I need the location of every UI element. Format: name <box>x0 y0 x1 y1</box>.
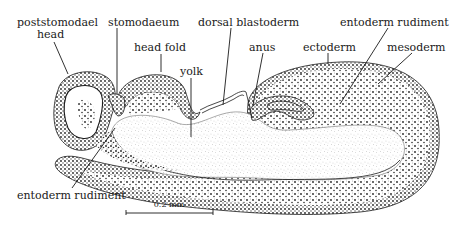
label-dorsal-blastoderm: dorsal blastoderm <box>198 16 300 29</box>
label-anus: anus <box>249 41 276 54</box>
embryo-diagram: poststomodael head stomodaeum dorsal bla… <box>0 0 458 228</box>
label-yolk: yolk <box>179 65 203 78</box>
label-entoderm-rudiment-top: entoderm rudiment <box>340 16 449 29</box>
leader-dorsal-blastoderm <box>223 28 231 105</box>
label-mesoderm: mesoderm <box>387 41 446 54</box>
label-stomodaeum: stomodaeum <box>108 16 180 29</box>
label-entoderm-rudiment-bottom: entoderm rudiment <box>17 189 126 202</box>
label-head-fold: head fold <box>134 41 186 54</box>
leader-poststomodael-head <box>54 42 68 74</box>
scale-bar-label: 0.2 mm <box>154 200 185 209</box>
label-ectoderm: ectoderm <box>303 41 357 54</box>
label-head: head <box>37 28 64 41</box>
